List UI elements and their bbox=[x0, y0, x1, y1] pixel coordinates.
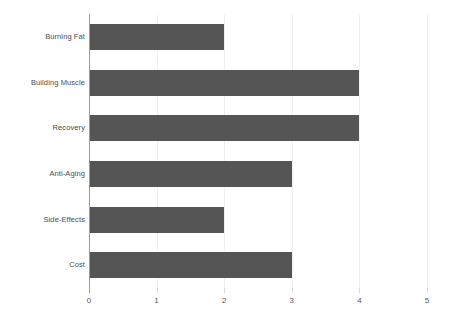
gridline bbox=[359, 14, 360, 288]
bar bbox=[89, 24, 224, 50]
bar-row bbox=[89, 207, 427, 233]
x-tick-mark bbox=[224, 288, 225, 293]
bar bbox=[89, 70, 359, 96]
x-tick-mark bbox=[89, 288, 90, 293]
category-label: Cost bbox=[0, 252, 85, 278]
x-tick-mark bbox=[157, 288, 158, 293]
bar-row bbox=[89, 115, 427, 141]
y-axis-line bbox=[89, 14, 90, 288]
gridline bbox=[157, 14, 158, 288]
plot-area bbox=[89, 14, 427, 288]
bar-row bbox=[89, 70, 427, 96]
x-tick-label: 5 bbox=[417, 296, 437, 305]
bar bbox=[89, 161, 292, 187]
x-tick-label: 4 bbox=[349, 296, 369, 305]
bar bbox=[89, 252, 292, 278]
x-tick-mark bbox=[359, 288, 360, 293]
category-label: Side-Effects bbox=[0, 207, 85, 233]
x-tick-label: 1 bbox=[147, 296, 167, 305]
bar bbox=[89, 207, 224, 233]
category-label: Recovery bbox=[0, 115, 85, 141]
x-tick-label: 0 bbox=[79, 296, 99, 305]
bar bbox=[89, 115, 359, 141]
bar-row bbox=[89, 252, 427, 278]
gridline bbox=[427, 14, 428, 288]
category-label: Anti-Aging bbox=[0, 161, 85, 187]
category-label: Burning Fat bbox=[0, 24, 85, 50]
bar-row bbox=[89, 161, 427, 187]
gridline bbox=[224, 14, 225, 288]
bar-row bbox=[89, 24, 427, 50]
x-tick-label: 2 bbox=[214, 296, 234, 305]
bar-chart: Burning FatBuilding MuscleRecoveryAnti-A… bbox=[0, 0, 452, 319]
x-tick-mark bbox=[427, 288, 428, 293]
x-tick-label: 3 bbox=[282, 296, 302, 305]
gridline bbox=[292, 14, 293, 288]
x-tick-mark bbox=[292, 288, 293, 293]
category-label: Building Muscle bbox=[0, 70, 85, 96]
